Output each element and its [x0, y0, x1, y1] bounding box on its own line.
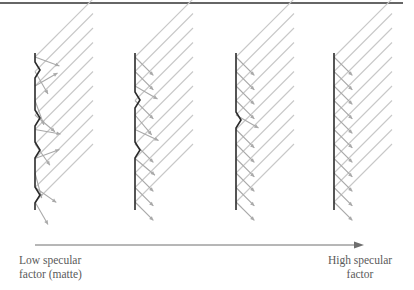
panel-high-mid	[236, 0, 294, 220]
high-label-line2: factor	[322, 267, 398, 281]
incident-ray	[334, 43, 392, 101]
incident-ray	[35, 101, 93, 159]
incident-ray	[35, 0, 93, 57]
incident-ray	[35, 43, 93, 101]
incident-ray	[135, 28, 193, 86]
axis-arrowhead	[354, 242, 364, 249]
incident-ray	[135, 43, 193, 101]
reflected-arrowhead	[52, 198, 56, 202]
incident-ray	[35, 28, 93, 86]
incident-ray	[236, 0, 294, 57]
incident-ray	[236, 14, 294, 72]
incident-ray	[35, 86, 93, 144]
incident-ray	[135, 115, 193, 173]
specular-axis-arrow	[35, 242, 364, 249]
panel-mirror	[334, 0, 392, 220]
incident-ray	[135, 0, 193, 57]
incident-ray	[236, 28, 294, 86]
low-label-line1: Low specular	[19, 253, 82, 267]
incident-ray	[135, 86, 193, 144]
panel-low-mid	[135, 0, 193, 220]
low-label-line2: factor (matte)	[19, 267, 82, 281]
high-label-line1: High specular	[322, 253, 398, 267]
specular-diagram	[0, 0, 414, 290]
incident-ray	[135, 130, 193, 188]
incident-ray	[236, 43, 294, 101]
panel-matte	[35, 0, 93, 225]
incident-ray	[334, 28, 392, 86]
incident-ray	[135, 14, 193, 72]
incident-ray	[35, 14, 93, 72]
low-specular-label: Low specular factor (matte)	[19, 253, 82, 281]
incident-ray	[334, 14, 392, 72]
incident-ray	[236, 115, 294, 173]
incident-ray	[35, 130, 93, 188]
high-specular-label: High specular factor	[322, 253, 398, 281]
incident-ray	[334, 0, 392, 57]
